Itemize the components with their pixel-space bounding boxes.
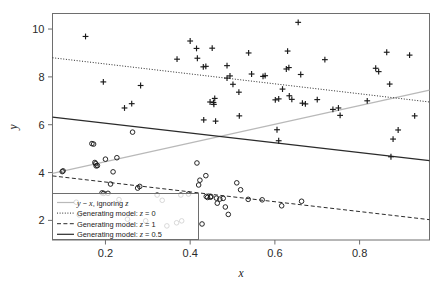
x-tick-label: 0.8 xyxy=(352,247,367,259)
x-tick-label: 0.2 xyxy=(98,247,113,259)
x-tick-label: 0.6 xyxy=(267,247,282,259)
y-tick-label: 4 xyxy=(38,167,44,179)
plot-canvas: 246810 0.20.40.60.8 x y y ~ x, ignoring … xyxy=(0,0,444,286)
legend: y ~ x, ignoring zGenerating model: z = 0… xyxy=(53,194,199,240)
y-tick-label: 10 xyxy=(32,23,44,35)
legend-label: Generating model: z = 1 xyxy=(77,220,156,229)
x-axis-title: x xyxy=(237,267,244,279)
legend-label: y ~ x, ignoring z xyxy=(76,199,129,208)
y-tick-label: 2 xyxy=(38,214,44,226)
y-tick-label: 6 xyxy=(38,119,44,131)
y-tick-label: 8 xyxy=(38,71,44,83)
scatter-plot-figure: 246810 0.20.40.60.8 x y y ~ x, ignoring … xyxy=(0,0,444,286)
x-tick-label: 0.4 xyxy=(183,247,198,259)
legend-label: Generating model: z = 0.5 xyxy=(77,230,162,239)
figure-background xyxy=(0,0,444,286)
legend-label: Generating model: z = 0 xyxy=(77,209,156,218)
y-axis-title: y xyxy=(7,124,20,131)
